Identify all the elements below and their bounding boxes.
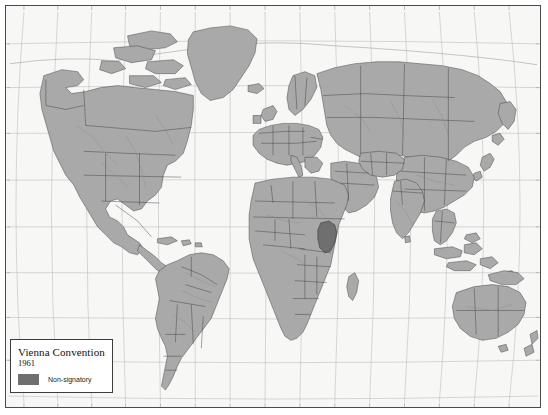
map-page: Vienna Convention 1961 Non-signatory bbox=[0, 0, 548, 415]
legend-color-swatch bbox=[18, 374, 39, 385]
legend-subtitle: 1961 bbox=[18, 358, 105, 369]
legend-title: Vienna Convention bbox=[18, 346, 105, 358]
legend-entry-label: Non-signatory bbox=[48, 376, 92, 383]
map-legend: Vienna Convention 1961 Non-signatory bbox=[10, 339, 113, 393]
legend-entry: Non-signatory bbox=[18, 374, 105, 385]
region-sri-lanka bbox=[405, 236, 411, 243]
